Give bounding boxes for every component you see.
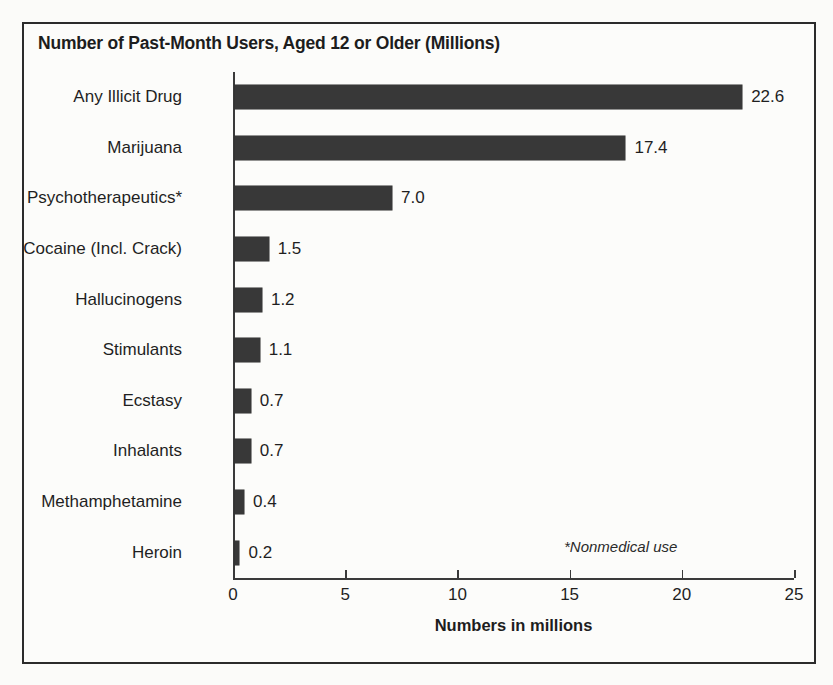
bar-container: 7.0 [235, 186, 425, 210]
x-tick-label: 0 [228, 585, 237, 605]
category-label: Ecstasy [0, 391, 182, 411]
bar-row: Heroin0.2 [24, 527, 814, 578]
bar-value-label: 7.0 [401, 188, 425, 208]
bar-value-label: 0.4 [253, 492, 277, 512]
category-label: Marijuana [0, 138, 182, 158]
bar [235, 389, 251, 413]
bar [235, 541, 239, 565]
x-axis-title: Numbers in millions [233, 616, 794, 635]
x-tick-label: 20 [672, 585, 691, 605]
bar-value-label: 1.1 [269, 340, 293, 360]
bar [235, 136, 625, 160]
x-tick-label: 5 [340, 585, 349, 605]
bar-container: 0.4 [235, 490, 277, 514]
bar-container: 1.2 [235, 288, 295, 312]
bar-value-label: 0.2 [248, 543, 272, 563]
bar-row: Any Illicit Drug22.6 [24, 72, 814, 123]
category-label: Any Illicit Drug [0, 87, 182, 107]
category-label: Heroin [0, 543, 182, 563]
x-tick-mark [457, 570, 459, 578]
x-tick-mark [570, 570, 572, 578]
bar-container: 0.7 [235, 439, 283, 463]
bar [235, 288, 262, 312]
bar-value-label: 1.5 [278, 239, 302, 259]
bar-container: 1.1 [235, 338, 292, 362]
bar-container: 1.5 [235, 237, 301, 261]
bar-row: Ecstasy0.7 [24, 376, 814, 427]
chart-frame: Number of Past-Month Users, Aged 12 or O… [22, 22, 816, 664]
bar-row: Inhalants0.7 [24, 426, 814, 477]
bar-rows: Any Illicit Drug22.6Marijuana17.4Psychot… [24, 72, 814, 578]
bar-container: 22.6 [235, 85, 784, 109]
bar [235, 439, 251, 463]
category-label: Hallucinogens [0, 290, 182, 310]
category-label: Methamphetamine [0, 492, 182, 512]
bar-container: 0.2 [235, 541, 272, 565]
bar [235, 85, 742, 109]
bar-value-label: 1.2 [271, 290, 295, 310]
category-label: Psychotherapeutics* [0, 188, 182, 208]
bar-container: 17.4 [235, 136, 668, 160]
bar-row: Cocaine (Incl. Crack)1.5 [24, 224, 814, 275]
category-label: Inhalants [0, 441, 182, 461]
bar [235, 237, 269, 261]
bar [235, 338, 260, 362]
bar-row: Stimulants1.1 [24, 325, 814, 376]
x-tick-mark [345, 570, 347, 578]
plot-area: Any Illicit Drug22.6Marijuana17.4Psychot… [24, 24, 814, 662]
x-tick-mark [233, 570, 235, 578]
bar-value-label: 22.6 [751, 87, 784, 107]
page-background: Number of Past-Month Users, Aged 12 or O… [0, 0, 833, 685]
bar-value-label: 0.7 [260, 391, 284, 411]
x-tick-mark [794, 570, 796, 578]
bar-row: Psychotherapeutics*7.0 [24, 173, 814, 224]
bar-value-label: 0.7 [260, 441, 284, 461]
bar-row: Methamphetamine0.4 [24, 477, 814, 528]
x-tick-label: 15 [560, 585, 579, 605]
footnote: *Nonmedical use [564, 538, 677, 555]
category-label: Stimulants [0, 340, 182, 360]
bar-row: Hallucinogens1.2 [24, 274, 814, 325]
x-tick-label: 25 [785, 585, 804, 605]
x-tick-mark [682, 570, 684, 578]
x-tick-label: 10 [448, 585, 467, 605]
bar-container: 0.7 [235, 389, 283, 413]
x-axis-ticks: 0510152025 [24, 578, 814, 618]
category-label: Cocaine (Incl. Crack) [0, 239, 182, 259]
bar [235, 490, 244, 514]
bar-value-label: 17.4 [634, 138, 667, 158]
bar-row: Marijuana17.4 [24, 123, 814, 174]
bar [235, 186, 392, 210]
